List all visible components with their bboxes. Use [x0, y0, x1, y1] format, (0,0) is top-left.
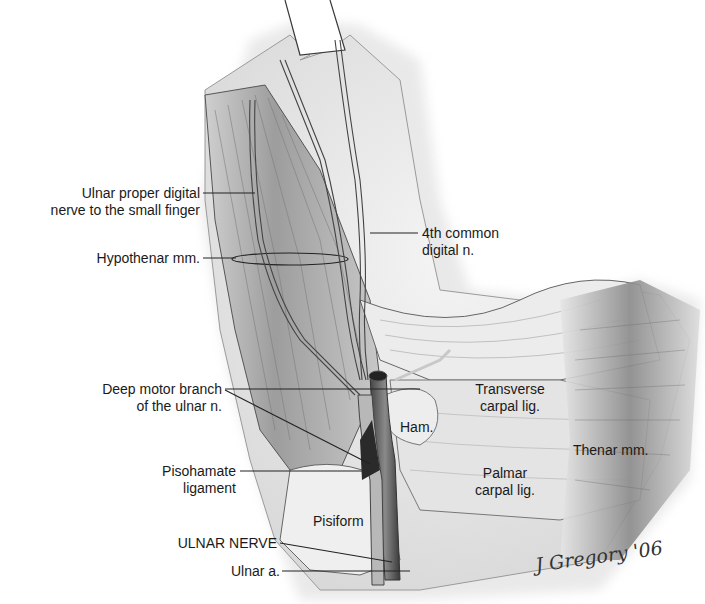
label-line: Palmar: [455, 465, 555, 482]
anatomy-figure: Ulnar proper digital nerve to the small …: [0, 0, 705, 604]
label-ulnar-proper-digital-nerve: Ulnar proper digital nerve to the small …: [30, 185, 200, 219]
label-line: Deep motor branch: [50, 381, 222, 398]
label-transverse-carpal-ligament: Transverse carpal lig.: [455, 381, 565, 415]
label-line: Ulnar proper digital: [30, 185, 200, 202]
label-palmar-carpal-ligament: Palmar carpal lig.: [455, 465, 555, 499]
label-hypothenar: Hypothenar mm.: [60, 250, 200, 267]
label-line: of the ulnar n.: [50, 398, 222, 415]
label-ulnar-nerve: ULNAR NERVE: [100, 535, 277, 552]
label-pisiform: Pisiform: [313, 513, 364, 530]
label-line: 4th common: [422, 225, 499, 242]
label-pisohamate-ligament: Pisohamate ligament: [100, 463, 236, 497]
label-line: nerve to the small finger: [30, 202, 200, 219]
artery-cut-end: [369, 371, 387, 381]
label-thenar: Thenar mm.: [573, 442, 648, 459]
label-line: carpal lig.: [455, 398, 565, 415]
label-line: ligament: [100, 480, 236, 497]
label-line: digital n.: [422, 242, 499, 259]
label-line: Transverse: [455, 381, 565, 398]
label-4th-common-digital-nerve: 4th common digital n.: [422, 225, 499, 259]
label-line: carpal lig.: [455, 482, 555, 499]
label-line: Pisohamate: [100, 463, 236, 480]
label-ulnar-artery: Ulnar a.: [180, 563, 280, 580]
label-deep-motor-branch: Deep motor branch of the ulnar n.: [50, 381, 222, 415]
label-hamate: Ham.: [400, 419, 433, 436]
